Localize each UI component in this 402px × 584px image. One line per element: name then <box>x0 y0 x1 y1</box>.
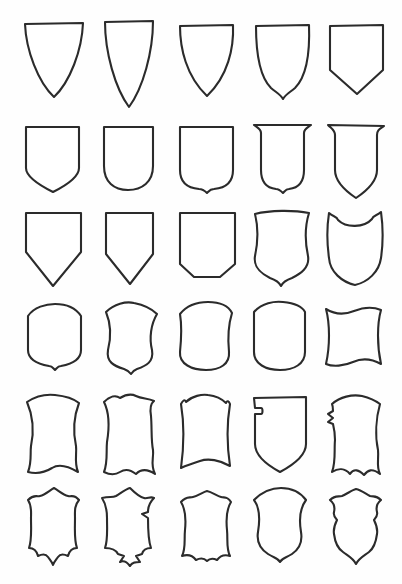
shield-broad-shallow-chamfer <box>180 213 235 277</box>
heater-shield-rounded-flank-outline <box>176 22 238 100</box>
shield-flanged-top-pointed-base-outline <box>326 122 388 200</box>
cartouche-broad-rounded-nipple <box>254 488 306 562</box>
shield-shape-17 <box>100 300 162 376</box>
shield-shape-1 <box>22 20 86 100</box>
shield-arched-top-round-base <box>180 302 232 370</box>
shield-shapes-sheet <box>0 0 402 584</box>
shield-dished-top-notched-outline <box>324 208 388 288</box>
shield-narrow-deep-point <box>106 213 153 284</box>
shield-waisted-curvy-nipple <box>106 302 157 374</box>
cartouche-bouche-scalloped-base-outline <box>324 392 386 478</box>
shield-flanged-top-nipple-base <box>254 125 311 193</box>
shield-rounded-top-nipple-outline <box>24 302 86 374</box>
cartouche-rounded-cusped-base-outline <box>176 488 236 568</box>
shield-shape-9 <box>252 122 316 196</box>
cartouche-notched-corners <box>104 395 155 475</box>
shield-shape-6 <box>22 124 84 196</box>
shield-shape-7 <box>100 124 158 194</box>
shield-curved-flank-cusped-outline <box>250 208 316 288</box>
shield-waisted-curvy-nipple-outline <box>100 300 162 376</box>
shield-straight-deep-point-outline <box>22 210 86 290</box>
cartouche-bouche-scalloped-base <box>328 395 380 475</box>
shield-ogee-cusped-point <box>256 25 309 99</box>
shield-square-chamfered-outline <box>22 124 84 196</box>
shield-shape-11 <box>22 210 86 290</box>
shield-shape-3 <box>176 22 238 100</box>
shield-shape-10 <box>326 122 388 200</box>
cartouche-wavy-concave <box>326 308 381 366</box>
shield-shape-8 <box>176 124 238 196</box>
shield-bouche-lance-notch-outline <box>250 392 312 476</box>
heater-shield-pointed-outline <box>22 20 86 100</box>
shield-shape-29 <box>248 486 312 568</box>
shield-bouche-lance-notch <box>254 397 306 472</box>
shield-dished-top-notched <box>328 212 383 285</box>
shield-straight-chamfered-base <box>330 25 383 94</box>
shield-shape-23 <box>176 392 234 474</box>
cartouche-wavy-concave-outline <box>322 302 386 372</box>
shield-square-chamfered <box>26 127 79 192</box>
heater-shield-rounded-flank <box>180 25 233 96</box>
shield-shape-19 <box>250 300 310 374</box>
shield-shape-28 <box>176 488 236 568</box>
shield-shape-18 <box>176 300 236 374</box>
cartouche-scalloped-flanks <box>330 489 381 564</box>
shield-curved-flank-cusped <box>255 211 309 286</box>
shield-round-corners-nipple-outline <box>176 124 238 196</box>
shield-shape-12 <box>102 210 158 288</box>
shield-flanged-top-nipple-base-outline <box>252 122 316 196</box>
heater-shield-pointed <box>25 23 83 97</box>
shield-u-round-base <box>104 127 153 190</box>
cartouche-stepped-cusped-outline <box>96 486 160 574</box>
cartouche-broad-rounded-nipple-outline <box>248 486 312 568</box>
cartouche-cusped-peaked-top <box>28 488 79 565</box>
shield-arched-top-u-base <box>254 302 305 370</box>
shield-arched-top-u-base-outline <box>250 300 310 374</box>
shield-rounded-top-nipple <box>28 304 81 370</box>
cartouche-flat-arched-top-outline <box>176 392 234 474</box>
shield-shape-26 <box>22 486 84 570</box>
shield-shape-5 <box>326 22 388 98</box>
shield-shape-21 <box>22 392 84 476</box>
shield-shape-27 <box>96 486 160 574</box>
shield-shape-30 <box>324 486 386 570</box>
cartouche-flat-arched-top <box>181 395 230 468</box>
shield-u-round-base-outline <box>100 124 158 194</box>
shield-arched-top-round-base-outline <box>176 300 236 374</box>
shield-broad-shallow-chamfer-outline <box>176 210 240 284</box>
cartouche-scroll-sides <box>27 395 79 473</box>
shield-shape-24 <box>250 392 312 476</box>
heater-shield-narrow-elongated <box>105 21 153 107</box>
shield-shape-20 <box>322 302 386 372</box>
shield-straight-deep-point <box>26 213 81 286</box>
cartouche-cusped-peaked-top-outline <box>22 486 84 570</box>
shield-ogee-cusped-point-outline <box>252 22 314 102</box>
shield-round-corners-nipple <box>180 127 233 193</box>
cartouche-rounded-cusped-base <box>181 491 231 561</box>
shield-shape-2 <box>100 18 158 110</box>
cartouche-notched-corners-outline <box>98 392 162 478</box>
shield-flanged-top-pointed-base <box>328 125 384 198</box>
shield-narrow-deep-point-outline <box>102 210 158 288</box>
shield-shape-16 <box>24 302 86 374</box>
shield-straight-chamfered-base-outline <box>326 22 388 98</box>
shield-shape-22 <box>98 392 162 478</box>
shield-shape-25 <box>324 392 386 478</box>
shield-shape-15 <box>324 208 388 288</box>
shield-shape-14 <box>250 208 316 288</box>
cartouche-stepped-cusped <box>102 488 154 566</box>
shield-shape-4 <box>252 22 314 102</box>
cartouche-scalloped-flanks-outline <box>324 486 386 570</box>
cartouche-scroll-sides-outline <box>22 392 84 476</box>
shield-shape-13 <box>176 210 240 284</box>
heater-shield-narrow-elongated-outline <box>100 18 158 110</box>
